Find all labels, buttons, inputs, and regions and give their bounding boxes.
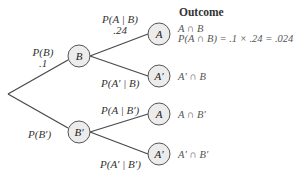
- node-A-top-label: A: [155, 28, 163, 40]
- branch-B-to-A-prime: [90, 56, 148, 76]
- node-B: B: [68, 45, 90, 67]
- label-P-B: P(B) .1: [26, 47, 60, 69]
- label-P-A-given-B: P(A | B) .24: [98, 14, 142, 36]
- node-A-top: A: [148, 23, 170, 45]
- label-P-A-prime-given-B: P(A′ | B): [101, 78, 139, 89]
- node-A-prime-bottom: A′: [148, 143, 170, 165]
- label-P-A-given-B-prime: P(A | B′): [101, 105, 139, 116]
- label-P-B-prime: P(B′): [28, 129, 51, 140]
- probability-tree: B B′ A A′ A A′: [0, 0, 297, 174]
- outcome-A-prime-and-B-prime: A′ ∩ B′: [178, 149, 208, 160]
- outcome-header: Outcome: [179, 6, 224, 18]
- branch-B-prime-to-A-prime: [90, 132, 148, 154]
- node-A-bottom-label: A: [155, 108, 163, 120]
- node-B-prime: B′: [68, 121, 90, 143]
- node-A-bottom: A: [148, 103, 170, 125]
- outcome-A-prime-and-B: A′ ∩ B: [178, 71, 206, 82]
- node-A-prime-top-label: A′: [153, 70, 164, 82]
- label-P-A-prime-given-B-prime: P(A′ | B′): [100, 159, 141, 170]
- outcome-A-and-B-prime: A ∩ B′: [178, 109, 206, 120]
- node-B-label: B: [76, 50, 83, 62]
- node-B-prime-label: B′: [74, 126, 84, 138]
- branch-B-to-A: [90, 34, 148, 56]
- branch-B-prime-to-A: [90, 114, 148, 132]
- label-P-B-value: .1: [26, 58, 60, 69]
- outcome-A-and-B-calc: P(A ∩ B) = .1 × .24 = .024: [178, 33, 293, 44]
- branch-root-to-B-prime: [8, 94, 68, 128]
- node-A-prime-bottom-label: A′: [153, 148, 164, 160]
- node-A-prime-top: A′: [148, 65, 170, 87]
- label-P-A-given-B-value: .24: [98, 25, 142, 36]
